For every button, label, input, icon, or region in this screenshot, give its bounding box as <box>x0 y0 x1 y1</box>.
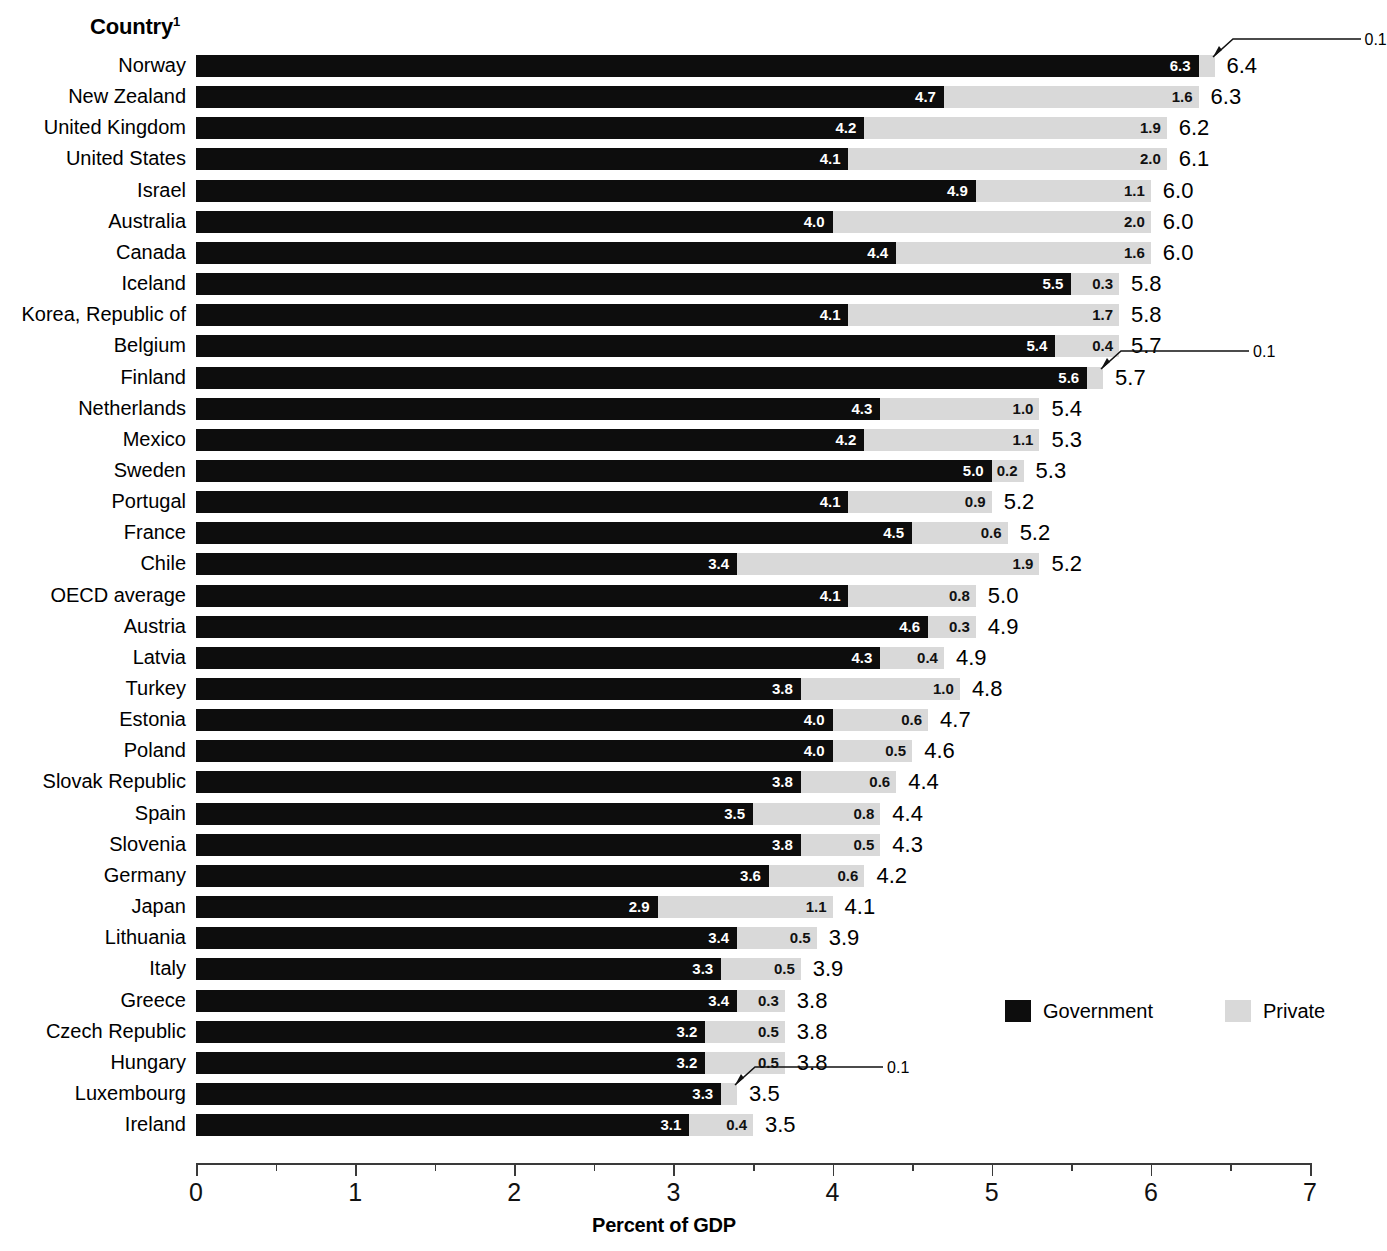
bar-row: 5.65.70.1 <box>196 367 1310 389</box>
bar-value-government: 3.4 <box>695 928 729 948</box>
bar-row: 4.71.66.3 <box>196 86 1310 108</box>
country-label: Korea, Republic of <box>6 303 186 325</box>
country-label: Australia <box>6 210 186 232</box>
bar-row: 4.91.16.0 <box>196 180 1310 202</box>
bar-value-private: 0.8 <box>938 586 970 606</box>
country-label: Sweden <box>6 459 186 481</box>
bar-row: 5.00.25.3 <box>196 460 1310 482</box>
bar-row: 3.80.54.3 <box>196 834 1310 856</box>
bar-row: 4.21.96.2 <box>196 117 1310 139</box>
bar-value-total: 4.3 <box>892 833 923 857</box>
x-axis-tick-minor <box>753 1163 755 1171</box>
bar-value-total: 5.8 <box>1131 303 1162 327</box>
bar-value-total: 4.4 <box>908 770 939 794</box>
country-label: France <box>6 521 186 543</box>
bar-row: 3.33.50.1 <box>196 1083 1310 1105</box>
bar-value-total: 5.4 <box>1051 397 1082 421</box>
bar-segment-government <box>196 335 1055 357</box>
country-label: Belgium <box>6 334 186 356</box>
bar-value-total: 4.9 <box>988 615 1019 639</box>
bar-segment-government <box>196 834 801 856</box>
bar-value-private: 1.0 <box>1001 399 1033 419</box>
bar-segment-government <box>196 55 1199 77</box>
bar-segment-private <box>848 148 1166 170</box>
private-value-callout-label: 0.1 <box>1253 344 1275 360</box>
bar-value-private: 0.5 <box>842 835 874 855</box>
bar-row: 6.36.40.1 <box>196 55 1310 77</box>
x-axis-tick-major <box>1151 1163 1153 1176</box>
x-axis-tick-label: 6 <box>1131 1178 1171 1207</box>
bar-value-government: 3.4 <box>695 991 729 1011</box>
country-label: Spain <box>6 802 186 824</box>
bar-value-government: 4.2 <box>822 430 856 450</box>
country-label: Turkey <box>6 677 186 699</box>
bar-value-private: 0.3 <box>1081 274 1113 294</box>
bar-row: 3.50.84.4 <box>196 803 1310 825</box>
x-axis-tick-minor <box>1071 1163 1073 1171</box>
bar-value-private: 0.6 <box>858 772 890 792</box>
bar-value-private: 2.0 <box>1129 149 1161 169</box>
bar-value-government: 3.6 <box>727 866 761 886</box>
bar-value-total: 3.5 <box>765 1113 796 1137</box>
bar-row: 4.11.75.8 <box>196 304 1310 326</box>
bar-value-total: 4.1 <box>845 895 876 919</box>
country-label: Luxembourg <box>6 1082 186 1104</box>
country-label-column: NorwayNew ZealandUnited KingdomUnited St… <box>0 55 186 1155</box>
bar-value-private: 0.5 <box>874 741 906 761</box>
bar-value-government: 4.3 <box>838 648 872 668</box>
country-label: Portugal <box>6 490 186 512</box>
bar-value-government: 5.6 <box>1045 368 1079 388</box>
country-label: Poland <box>6 739 186 761</box>
bar-row: 4.30.44.9 <box>196 647 1310 669</box>
bar-value-private: 0.6 <box>970 523 1002 543</box>
x-axis-tick-major <box>196 1163 198 1176</box>
x-axis-tick-label: 3 <box>653 1178 693 1207</box>
bar-value-private: 0.2 <box>986 461 1018 481</box>
bar-value-private: 1.1 <box>1001 430 1033 450</box>
bar-value-total: 5.2 <box>1020 521 1051 545</box>
bar-value-total: 6.1 <box>1179 147 1210 171</box>
bar-segment-government <box>196 958 721 980</box>
bar-value-government: 4.3 <box>838 399 872 419</box>
bar-row: 4.12.06.1 <box>196 148 1310 170</box>
bar-segment-government <box>196 367 1087 389</box>
bar-value-total: 5.3 <box>1051 428 1082 452</box>
bar-segment-government <box>196 647 880 669</box>
bar-value-total: 5.0 <box>988 584 1019 608</box>
bar-segment-private <box>848 304 1119 326</box>
country-label: OECD average <box>6 584 186 606</box>
x-axis-tick-major <box>514 1163 516 1176</box>
bar-row: 3.30.53.9 <box>196 958 1310 980</box>
bar-segment-government <box>196 896 658 918</box>
bar-value-government: 6.3 <box>1157 56 1191 76</box>
bar-segment-government <box>196 1114 689 1136</box>
bar-value-private: 1.6 <box>1161 87 1193 107</box>
bar-value-total: 4.6 <box>924 739 955 763</box>
bar-value-total: 6.0 <box>1163 179 1194 203</box>
legend-swatch-government-icon <box>1005 1000 1031 1022</box>
bar-value-total: 4.8 <box>972 677 1003 701</box>
country-label: Finland <box>6 366 186 388</box>
bar-segment-private <box>833 211 1151 233</box>
country-label: Slovenia <box>6 833 186 855</box>
bar-value-government: 3.1 <box>647 1115 681 1135</box>
country-label: Norway <box>6 54 186 76</box>
bar-segment-government <box>196 678 801 700</box>
bar-value-private: 0.3 <box>938 617 970 637</box>
x-axis-tick-major <box>1310 1163 1312 1176</box>
bar-segment-government <box>196 242 896 264</box>
bar-segment-private <box>864 117 1166 139</box>
x-axis-tick-major <box>355 1163 357 1176</box>
bar-segment-government <box>196 740 833 762</box>
bar-value-government: 5.5 <box>1029 274 1063 294</box>
bar-value-government: 3.5 <box>711 804 745 824</box>
bar-value-private: 0.9 <box>954 492 986 512</box>
bar-row: 5.50.35.8 <box>196 273 1310 295</box>
bar-value-total: 6.3 <box>1211 85 1242 109</box>
bar-row: 4.02.06.0 <box>196 211 1310 233</box>
bar-segment-government <box>196 304 848 326</box>
bar-row: 4.21.15.3 <box>196 429 1310 451</box>
bar-segment-government <box>196 585 848 607</box>
bar-row: 4.10.85.0 <box>196 585 1310 607</box>
